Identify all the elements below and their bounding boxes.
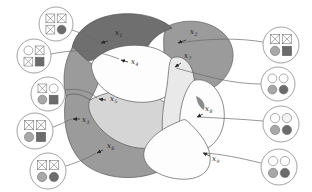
filled-square-icon [36,132,45,141]
filled-square-icon [49,95,58,104]
filled-circle-icon [282,125,291,134]
half-filled-circle-icon [268,85,277,94]
icon-outline-circle [263,27,299,63]
icon-outline-circle [17,39,51,73]
icon-6[interactable] [263,27,299,63]
icon-1[interactable] [39,7,73,41]
icon-7[interactable] [261,67,295,101]
icon-9[interactable] [261,149,297,185]
half-filled-circle-icon [268,168,277,177]
icon-outline-circle [261,67,295,101]
open-circle-icon [270,113,279,122]
half-filled-circle-icon [38,95,47,104]
icon-outline-circle [39,7,73,41]
open-circle-icon [24,46,33,55]
icon-2[interactable] [17,39,51,73]
half-filled-circle-icon [270,125,279,134]
half-filled-circle-icon [270,46,279,55]
filled-circle-icon [49,172,58,181]
filled-circle-icon [279,85,288,94]
icon-4[interactable] [17,113,53,149]
open-circle-icon [279,74,288,83]
open-circle-icon [280,156,289,165]
filled-circle-icon [57,25,66,34]
icons-layer [0,0,312,192]
open-circle-icon [268,74,277,83]
icon-5[interactable] [30,153,66,189]
icon-outline-circle [263,106,299,142]
open-circle-icon [49,84,58,93]
icon-outline-circle [261,149,297,185]
icon-outline-circle [31,77,65,111]
filled-circle-icon [280,168,289,177]
half-filled-circle-icon [24,132,33,141]
icon-outline-circle [30,153,66,189]
icon-8[interactable] [263,106,299,142]
filled-square-icon [282,46,291,55]
icon-3[interactable] [31,77,65,111]
open-circle-icon [268,156,277,165]
half-filled-circle-icon [37,172,46,181]
icon-group [17,7,299,189]
open-circle-light-icon [282,113,291,122]
icon-outline-circle [17,113,53,149]
figure-canvas: x1x2x3x4x5x6x7x8x9 [0,0,312,192]
